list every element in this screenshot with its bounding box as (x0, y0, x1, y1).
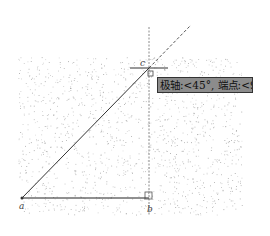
point-label-c: c (140, 59, 145, 68)
point-label-a: a (19, 202, 24, 211)
point-a-marker[interactable] (21, 197, 24, 200)
polar-tracking-line (149, 25, 191, 68)
line-segment-ac[interactable] (22, 68, 149, 198)
point-label-b: b (147, 205, 153, 214)
drawing-canvas[interactable] (0, 0, 270, 236)
polar-tracking-tooltip: 极轴:<45°, 端点:<90° (157, 77, 253, 93)
